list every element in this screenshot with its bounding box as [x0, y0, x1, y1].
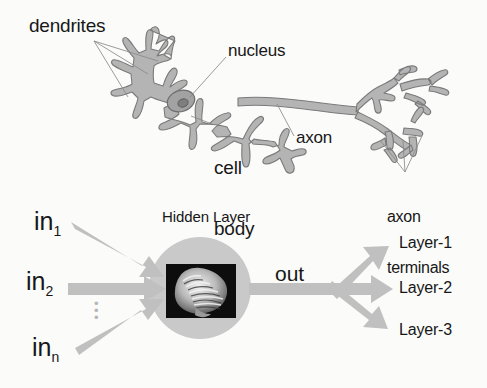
label-layer-1: Layer-1 [399, 235, 452, 252]
nucleus-pointer [190, 57, 226, 97]
label-out: out [275, 263, 304, 285]
label-input-2-base: in [26, 267, 45, 295]
label-cell-body: cell body [214, 118, 254, 279]
input-arrow-1 [71, 222, 164, 277]
label-nucleus: nucleus [228, 42, 285, 60]
label-input-n-sub: n [51, 349, 59, 365]
input-ellipsis: • • • [94, 300, 99, 321]
label-input-n: inn [32, 334, 59, 365]
label-input-1-base: in [34, 207, 53, 235]
label-input-1: in1 [34, 208, 61, 239]
label-axon-terminals-line1: axon [387, 209, 449, 226]
label-axon-terminals-line2: terminals [387, 260, 449, 277]
label-dendrites: dendrites [29, 16, 105, 36]
label-axon: axon [296, 129, 332, 147]
label-input-2-sub: 2 [45, 283, 53, 299]
label-hidden-layer: Hidden Layer [162, 209, 250, 225]
axon-shape [238, 97, 358, 115]
neuron-ann-figure: • • • dendrites nucleus cell body axon a… [0, 0, 487, 388]
label-input-1-sub: 1 [53, 223, 61, 239]
input-arrow-3 [75, 299, 164, 355]
axon-terminal-lower-twigs [371, 107, 424, 162]
label-input-n-base: in [32, 333, 51, 361]
label-input-2: in2 [26, 268, 53, 299]
label-layer-3: Layer-3 [399, 322, 452, 339]
label-layer-2: Layer-2 [399, 280, 452, 297]
ellipsis-dot: • [94, 314, 99, 321]
label-cell-body-line1: cell [214, 158, 254, 178]
